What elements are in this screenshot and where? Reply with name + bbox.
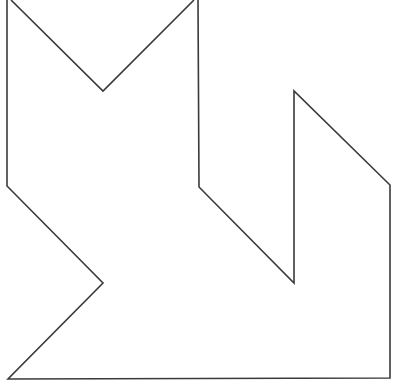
tangram-figure <box>0 0 395 385</box>
shape-outline <box>7 0 390 379</box>
top-notch-outline <box>11 0 194 91</box>
